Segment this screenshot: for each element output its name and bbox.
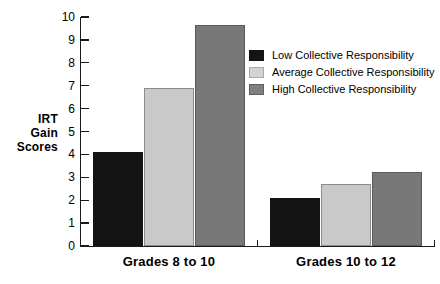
x-axis-endcap-right bbox=[434, 240, 435, 247]
y-axis-tick-label: 2 bbox=[53, 194, 75, 206]
y-axis-title-line-3: Scores bbox=[2, 140, 58, 154]
legend-swatch-average-icon bbox=[249, 67, 264, 78]
y-axis-title-line-2: Gain bbox=[2, 126, 58, 140]
bar-chart: IRT Gain Scores 012345678910 Grades 8 to… bbox=[0, 0, 440, 284]
y-axis-tick bbox=[81, 62, 89, 63]
bar bbox=[372, 172, 422, 246]
y-axis-title: IRT Gain Scores bbox=[2, 112, 58, 154]
y-axis-tick bbox=[81, 85, 89, 86]
bar bbox=[270, 198, 320, 246]
bar bbox=[195, 25, 245, 246]
y-axis-tick bbox=[81, 245, 89, 246]
y-axis-tick bbox=[81, 16, 89, 17]
legend-label-low: Low Collective Responsibility bbox=[272, 49, 414, 61]
y-axis-tick-label: 0 bbox=[53, 240, 75, 252]
y-axis-tick-label: 4 bbox=[53, 148, 75, 160]
y-axis-title-line-1: IRT bbox=[2, 112, 58, 126]
y-axis-tick bbox=[81, 177, 89, 178]
x-axis-group-label-2: Grades 10 to 12 bbox=[261, 254, 431, 269]
y-axis-tick-label: 8 bbox=[53, 57, 75, 69]
bar bbox=[93, 152, 143, 246]
y-axis-tick bbox=[81, 39, 89, 40]
legend: Low Collective Responsibility Average Co… bbox=[249, 48, 434, 99]
y-axis-tick bbox=[81, 108, 89, 109]
legend-item-high: High Collective Responsibility bbox=[249, 82, 434, 96]
y-axis-tick-label: 6 bbox=[53, 103, 75, 115]
legend-label-high: High Collective Responsibility bbox=[272, 83, 416, 95]
legend-swatch-low-icon bbox=[249, 50, 264, 61]
legend-label-average: Average Collective Responsibility bbox=[272, 66, 434, 78]
y-axis-tick bbox=[81, 131, 89, 132]
y-axis-tick bbox=[81, 222, 89, 223]
y-axis-tick-label: 1 bbox=[53, 217, 75, 229]
bar bbox=[321, 184, 371, 246]
y-axis-tick bbox=[81, 154, 89, 155]
y-axis-tick bbox=[81, 200, 89, 201]
x-axis-endcap-left bbox=[80, 240, 81, 247]
y-axis-tick-label: 5 bbox=[53, 126, 75, 138]
legend-item-average: Average Collective Responsibility bbox=[249, 65, 434, 79]
y-axis-tick-label: 10 bbox=[53, 11, 75, 23]
x-axis-group-label-1: Grades 8 to 10 bbox=[84, 254, 254, 269]
y-axis-tick-label: 3 bbox=[53, 171, 75, 183]
legend-item-low: Low Collective Responsibility bbox=[249, 48, 434, 62]
y-axis-tick-label: 7 bbox=[53, 80, 75, 92]
y-axis-tick-label: 9 bbox=[53, 34, 75, 46]
legend-swatch-high-icon bbox=[249, 84, 264, 95]
x-axis-endcap-middle bbox=[257, 240, 258, 247]
bar bbox=[144, 88, 194, 246]
